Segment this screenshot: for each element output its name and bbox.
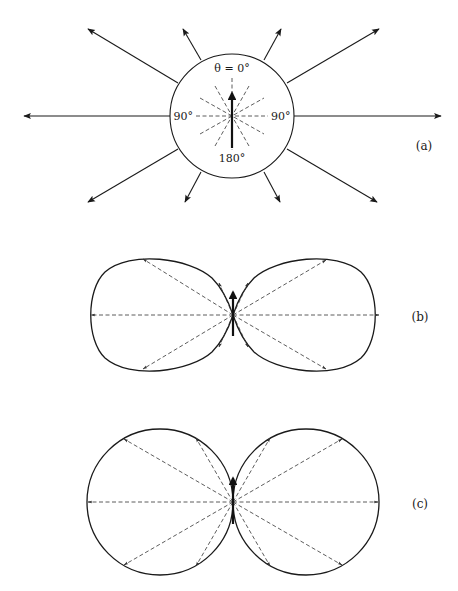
- arrow-lower-right-30: [287, 149, 377, 202]
- angle-label-top: θ = 0°: [214, 62, 249, 75]
- arrow-lower-left-30: [88, 149, 178, 202]
- angle-label-right: 90°: [271, 110, 291, 123]
- arrow-upper-right-60: [264, 29, 281, 60]
- arrow-upper-right-30: [287, 29, 379, 83]
- dashed-radial-arrows-b: [91, 259, 379, 369]
- angle-label-bottom: 180°: [219, 152, 246, 165]
- angle-label-left: 90°: [174, 110, 194, 123]
- panel-label-b: (b): [411, 310, 428, 324]
- panel-b: (b): [91, 259, 429, 371]
- arrow-upper-left-30: [88, 29, 178, 83]
- panel-a: θ = 0° 90° 90° 180° (a): [24, 29, 441, 202]
- arrow-upper-left-60: [183, 29, 201, 60]
- arrow-lower-left-60: [185, 172, 201, 202]
- arrow-lower-right-60: [264, 172, 280, 202]
- panel-c: (c): [87, 429, 428, 575]
- radiation-pattern-figure: θ = 0° 90° 90° 180° (a) (b): [0, 0, 458, 591]
- panel-label-c: (c): [412, 497, 428, 511]
- panel-label-a: (a): [416, 139, 433, 153]
